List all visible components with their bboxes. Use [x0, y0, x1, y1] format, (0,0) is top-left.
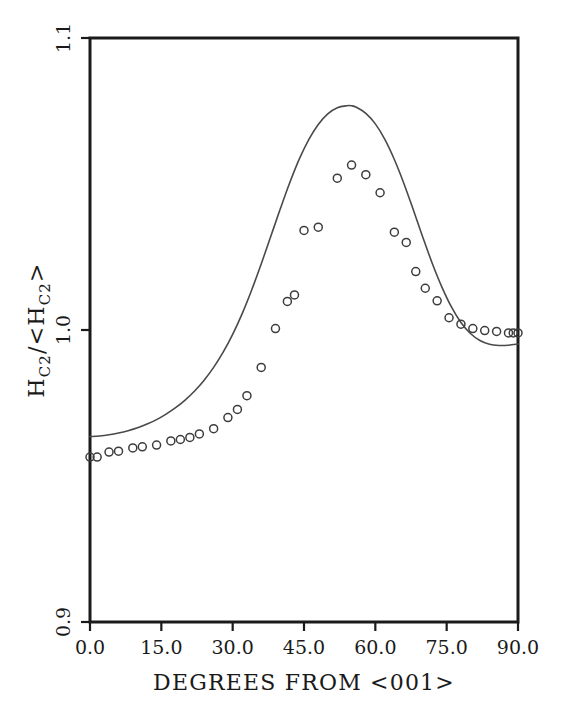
- figure-container: 0.91.01.1 0.015.030.045.060.075.090.0 DE…: [0, 0, 573, 712]
- data-point: [481, 327, 489, 335]
- data-point: [376, 189, 384, 197]
- x-tick-label: 60.0: [354, 636, 396, 658]
- theory-curve-path: [90, 106, 518, 437]
- y-title-sub1: C2: [36, 354, 54, 377]
- data-point: [493, 327, 501, 335]
- y-tick-label: 0.9: [52, 607, 74, 637]
- data-point: [362, 171, 370, 179]
- data-point: [433, 297, 441, 305]
- y-axis-tick-labels: 0.91.01.1: [52, 23, 74, 637]
- y-title-slash: /<: [24, 326, 49, 354]
- data-point: [105, 448, 113, 456]
- data-point: [333, 174, 341, 182]
- y-tick-label: 1.1: [52, 23, 74, 53]
- y-title-close: >: [24, 262, 49, 282]
- data-point: [167, 437, 175, 445]
- data-point: [224, 414, 232, 422]
- data-point: [186, 433, 194, 441]
- data-point: [402, 238, 410, 246]
- x-tick-label: 90.0: [497, 636, 539, 658]
- x-axis-tick-labels: 0.015.030.045.060.075.090.0: [75, 636, 539, 658]
- data-point: [469, 325, 477, 333]
- y-axis-title-group: HC2/<HC2>: [24, 262, 54, 398]
- data-point: [348, 161, 356, 169]
- data-point: [153, 441, 161, 449]
- data-point: [290, 291, 298, 299]
- data-point: [115, 447, 123, 455]
- data-point: [445, 314, 453, 322]
- data-point: [283, 297, 291, 305]
- data-point: [233, 405, 241, 413]
- y-title-sub2: C2: [36, 282, 54, 305]
- data-point: [257, 363, 265, 371]
- data-point: [390, 228, 398, 236]
- measured-data-markers: [86, 161, 522, 461]
- theory-curve: [90, 106, 518, 437]
- x-tick-label: 15.0: [140, 636, 182, 658]
- data-point: [176, 436, 184, 444]
- y-axis-title: HC2/<HC2>: [24, 262, 54, 398]
- data-point: [412, 268, 420, 276]
- data-point: [314, 223, 322, 231]
- data-point: [129, 444, 137, 452]
- x-tick-label: 75.0: [426, 636, 468, 658]
- data-point: [195, 430, 203, 438]
- data-point: [271, 325, 279, 333]
- y-title-h2: H: [24, 305, 49, 325]
- data-point: [300, 226, 308, 234]
- chart-canvas: 0.91.01.1 0.015.030.045.060.075.090.0 DE…: [0, 0, 573, 712]
- y-title-h1: H: [24, 377, 49, 397]
- data-point: [243, 392, 251, 400]
- x-tick-label: 45.0: [283, 636, 325, 658]
- plot-frame: [90, 38, 518, 622]
- data-point: [138, 443, 146, 451]
- x-axis-title: DEGREES FROM <001>: [153, 670, 455, 695]
- data-point: [210, 425, 218, 433]
- y-tick-label: 1.0: [52, 315, 74, 345]
- x-tick-label: 0.0: [75, 636, 105, 658]
- x-tick-label: 30.0: [212, 636, 254, 658]
- axes-frame: [90, 38, 518, 622]
- data-point: [421, 284, 429, 292]
